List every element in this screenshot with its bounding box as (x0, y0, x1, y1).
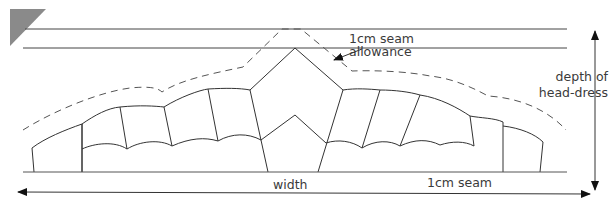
right-upper-curve (343, 89, 503, 122)
left-divider-3 (164, 107, 172, 146)
bottom-seam-label: 1cm seam (427, 176, 492, 190)
right-divider-1 (362, 90, 380, 148)
left-divider-2 (120, 107, 127, 149)
center-piece (250, 48, 343, 172)
center-inner-chevron (261, 115, 326, 143)
seam-allowance-label-line2: allowance (349, 45, 412, 59)
left-divider-4 (208, 89, 218, 141)
right-divider-2 (400, 95, 420, 146)
left-outer-piece (32, 124, 82, 172)
depth-label-line1: depth of (538, 70, 608, 84)
right-divider-3 (470, 116, 474, 146)
width-arrow (18, 192, 590, 194)
width-label: width (273, 178, 307, 192)
right-outer-piece (503, 126, 543, 172)
depth-label-line2: head-dress (524, 86, 608, 100)
corner-marker (10, 9, 46, 46)
right-lower-scallop (326, 141, 474, 148)
